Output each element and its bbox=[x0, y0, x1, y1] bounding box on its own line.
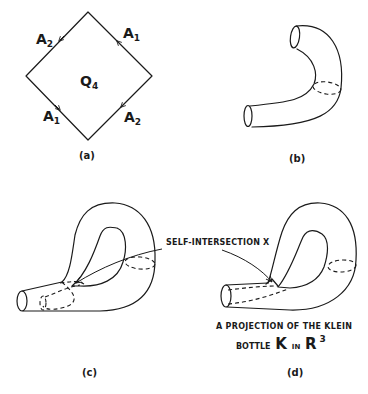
pointer-line-c bbox=[76, 249, 162, 283]
tube-opening-left bbox=[17, 291, 27, 311]
self-intersection-mark bbox=[266, 279, 278, 286]
tube-opening-top bbox=[289, 25, 301, 48]
edge-label-lower-right: A2 bbox=[124, 109, 141, 127]
tube-inner-loop bbox=[278, 231, 328, 288]
tube-outer-wall bbox=[227, 203, 356, 310]
tube-inner-wall bbox=[250, 49, 316, 106]
caption: A PROJECTION OF THE KLEIN BOTTLE K IN R … bbox=[216, 322, 352, 353]
panel-label-c: (c) bbox=[82, 367, 97, 378]
edge-label-lower-left: A1 bbox=[43, 108, 60, 126]
self-intersection-annotation: SELF-INTERSECTION X bbox=[76, 238, 272, 283]
tube-cross-section bbox=[312, 80, 341, 96]
panel-c: (c) bbox=[17, 203, 155, 378]
caption-line-1: A PROJECTION OF THE KLEIN bbox=[216, 322, 352, 331]
caption-line-2: BOTTLE K IN R 3 bbox=[236, 334, 326, 353]
tube-outer-wall bbox=[252, 26, 342, 127]
edge-label-upper-left: A2 bbox=[36, 31, 53, 49]
hidden-tube-end bbox=[40, 296, 46, 310]
tube-top-wall bbox=[22, 282, 62, 291]
tube-cross-section bbox=[328, 259, 357, 272]
tube-outer-wall bbox=[23, 203, 155, 311]
panel-d: (d) bbox=[221, 203, 356, 378]
tube-inner-loop bbox=[72, 227, 125, 286]
panel-b: (b) bbox=[244, 25, 342, 164]
tube-top-wall bbox=[226, 283, 268, 285]
klein-bottle-figure: A2 A1 A1 A2 Q4 (a) (b) bbox=[0, 0, 368, 394]
hidden-tube-bottom bbox=[228, 289, 288, 304]
edge-arrow-icon bbox=[122, 102, 126, 106]
self-intersection-label: SELF-INTERSECTION X bbox=[166, 238, 270, 247]
edge-label-upper-right: A1 bbox=[123, 25, 140, 43]
tube-opening-bottom bbox=[244, 106, 252, 127]
hidden-tube-top bbox=[45, 285, 80, 297]
panel-label-b: (b) bbox=[289, 153, 305, 164]
edge-arrow-icon bbox=[118, 42, 122, 46]
panel-a: A2 A1 A1 A2 Q4 (a) bbox=[26, 12, 152, 161]
panel-label-d: (d) bbox=[287, 367, 303, 378]
panel-label-a: (a) bbox=[79, 150, 95, 161]
pointer-line-d bbox=[222, 250, 272, 282]
center-label-q4: Q4 bbox=[80, 73, 98, 91]
hidden-tube-top bbox=[228, 286, 278, 290]
